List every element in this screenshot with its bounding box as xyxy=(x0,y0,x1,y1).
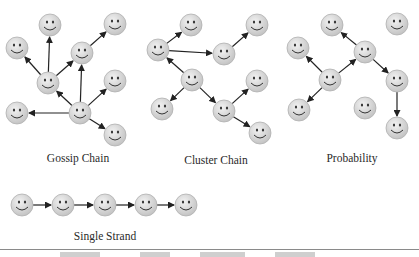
smiley-node-icon xyxy=(11,194,33,216)
smiley-node-icon xyxy=(6,102,28,124)
smiley-node-icon xyxy=(52,194,74,216)
smiley-node-icon xyxy=(249,122,271,144)
smiley-node-icon xyxy=(319,69,341,91)
smiley-node-icon xyxy=(104,124,126,146)
arrow-edge xyxy=(232,89,248,104)
smiley-node-icon xyxy=(180,14,202,36)
arrow-edge xyxy=(232,33,248,47)
nodes-layer xyxy=(6,13,408,216)
arrow-edge xyxy=(200,88,215,103)
smiley-node-icon xyxy=(147,39,169,61)
diagram-caption-single: Single Strand xyxy=(74,230,136,242)
diagram-canvas xyxy=(0,0,419,257)
arrow-edge xyxy=(25,57,41,75)
smiley-node-icon xyxy=(151,98,173,120)
arrow-edge xyxy=(88,89,106,105)
smiley-node-icon xyxy=(321,14,343,36)
smiley-node-icon xyxy=(246,14,268,36)
arrow-edge xyxy=(341,33,356,45)
diagram-caption-probability: Probability xyxy=(326,152,377,164)
arrow-edge xyxy=(306,56,322,72)
diagram-caption-gossip: Gossip Chain xyxy=(47,152,109,164)
arrow-edge xyxy=(339,59,356,73)
smiley-node-icon xyxy=(288,99,310,121)
arrow-edge xyxy=(56,61,73,76)
smiley-node-icon xyxy=(104,70,126,92)
smiley-node-icon xyxy=(71,42,93,64)
smiley-node-icon xyxy=(386,117,408,139)
smiley-node-icon xyxy=(213,43,235,65)
smiley-node-icon xyxy=(246,70,268,92)
smiley-node-icon xyxy=(386,70,408,92)
smiley-node-icon xyxy=(94,194,116,216)
smiley-node-icon xyxy=(181,69,203,91)
cutoff-text-fragment xyxy=(140,252,170,257)
arrow-edge xyxy=(48,37,49,72)
smiley-node-icon xyxy=(39,14,61,36)
arrow-edge xyxy=(167,32,182,43)
arrow-edge xyxy=(89,119,105,129)
arrow-edge xyxy=(80,65,81,102)
arrow-edge xyxy=(90,32,106,46)
smiley-node-icon xyxy=(104,13,126,35)
arrow-edge xyxy=(169,51,212,54)
smiley-node-icon xyxy=(37,72,59,94)
cutoff-text-fragment xyxy=(275,252,315,257)
arrow-edge xyxy=(57,91,72,105)
arrow-edge xyxy=(233,117,249,127)
smiley-node-icon xyxy=(386,13,408,35)
cutoff-text-fragment xyxy=(200,252,245,257)
smiley-node-icon xyxy=(354,97,376,119)
cutoff-text-fragment xyxy=(60,252,100,257)
smiley-node-icon xyxy=(213,100,235,122)
arrow-edge xyxy=(171,88,184,101)
smiley-node-icon xyxy=(354,41,376,63)
arrow-edge xyxy=(308,88,322,102)
arrow-edge xyxy=(373,59,388,73)
smiley-node-icon xyxy=(287,37,309,59)
smiley-node-icon xyxy=(135,194,157,216)
smiley-node-icon xyxy=(175,194,197,216)
arrow-edge xyxy=(167,58,184,73)
smiley-node-icon xyxy=(6,37,28,59)
bottom-divider xyxy=(0,249,419,250)
diagram-caption-cluster: Cluster Chain xyxy=(184,154,248,166)
smiley-node-icon xyxy=(69,102,91,124)
